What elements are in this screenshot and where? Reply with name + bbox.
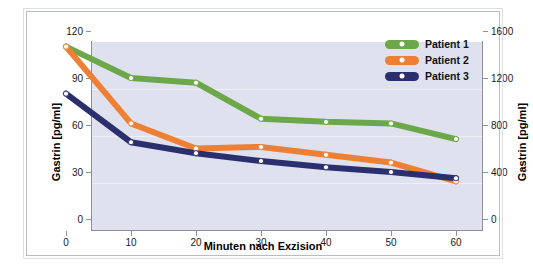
- legend-swatch-icon: [385, 40, 419, 49]
- legend-item-2: Patient 2: [385, 54, 469, 66]
- data-point-marker: [453, 176, 458, 181]
- data-point-marker: [258, 144, 263, 149]
- data-point-marker: [128, 140, 133, 145]
- figure-border: 0306090120 040080012001600 0102030405060…: [26, 11, 500, 256]
- data-point-marker: [258, 116, 263, 121]
- legend-item-1: Patient 1: [385, 38, 469, 50]
- data-point-marker: [128, 75, 133, 80]
- data-point-marker: [388, 121, 393, 126]
- legend: Patient 1Patient 2Patient 3: [385, 38, 469, 82]
- y-axis-right-title: Gastrin [pg/ml]: [516, 67, 528, 217]
- data-point-marker: [258, 158, 263, 163]
- data-point-marker: [388, 169, 393, 174]
- legend-swatch-icon: [385, 56, 419, 65]
- data-point-marker: [63, 91, 68, 96]
- legend-swatch-icon: [385, 72, 419, 81]
- data-point-marker: [128, 121, 133, 126]
- legend-marker-dot-icon: [400, 74, 405, 79]
- legend-marker-dot-icon: [400, 42, 405, 47]
- legend-label: Patient 1: [425, 38, 469, 50]
- legend-label: Patient 3: [425, 70, 469, 82]
- data-point-marker: [323, 119, 328, 124]
- data-point-marker: [453, 137, 458, 142]
- data-point-marker: [388, 160, 393, 165]
- data-point-marker: [323, 152, 328, 157]
- data-point-marker: [193, 151, 198, 156]
- x-axis-title: Minuten nach Exzision: [0, 240, 526, 252]
- legend-label: Patient 2: [425, 54, 469, 66]
- data-point-marker: [323, 165, 328, 170]
- y-axis-left-title: Gastrin [pg/ml]: [50, 67, 62, 217]
- data-point-marker: [63, 44, 68, 49]
- legend-item-3: Patient 3: [385, 70, 469, 82]
- legend-marker-dot-icon: [400, 58, 405, 63]
- data-point-marker: [193, 80, 198, 85]
